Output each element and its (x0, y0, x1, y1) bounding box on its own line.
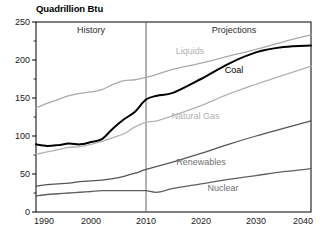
y-tick-label: 200 (15, 55, 30, 65)
chart-plot-area: 050100150200250 199020002010202020302040… (0, 0, 327, 238)
y-axis-ticks (32, 22, 36, 212)
series-line-natural-gas (36, 66, 311, 154)
region-annotations: HistoryProjections (77, 25, 257, 35)
series-label-renewables: Renewables (176, 157, 226, 167)
series-line-coal (36, 46, 311, 146)
y-axis-tick-labels: 050100150200250 (15, 17, 30, 217)
y-tick-label: 100 (15, 131, 30, 141)
x-tick-label: 2000 (81, 216, 101, 226)
series-line-liquids (36, 35, 311, 108)
annotation-projections: Projections (212, 25, 257, 35)
series-label-natural-gas: Natural Gas (171, 111, 220, 121)
x-tick-label: 2040 (293, 216, 313, 226)
y-tick-label: 0 (25, 207, 30, 217)
series-inline-labels: LiquidsCoalNatural GasRenewablesNuclear (171, 46, 243, 193)
series-label-nuclear: Nuclear (207, 183, 238, 193)
x-tick-label: 2030 (246, 216, 266, 226)
x-tick-label: 2010 (136, 216, 156, 226)
chart-figure: Quadrillion Btu 050100150200250 19902000… (0, 0, 327, 238)
y-tick-label: 50 (20, 169, 30, 179)
series-label-coal: Coal (225, 65, 244, 75)
x-tick-label: 2020 (191, 216, 211, 226)
y-tick-label: 250 (15, 17, 30, 27)
x-axis-tick-labels: 199020002010202020302040 (34, 216, 313, 226)
series-label-liquids: Liquids (176, 46, 205, 56)
x-tick-label: 1990 (34, 216, 54, 226)
series-line-renewables (36, 121, 311, 186)
y-tick-label: 150 (15, 93, 30, 103)
annotation-history: History (77, 25, 106, 35)
